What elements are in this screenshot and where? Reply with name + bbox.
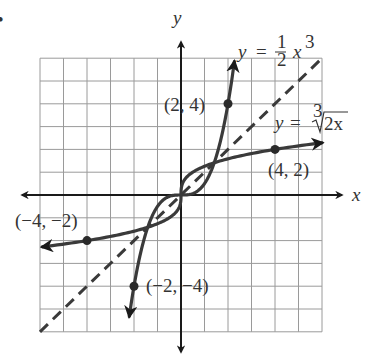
radical-index: 3 [313, 100, 323, 121]
graph-canvas: • x y (2, 4) (4, 2) (−4, −2) (−2, −4) y … [0, 0, 368, 361]
eq-y: y [273, 112, 284, 133]
point-label-4-2: (4, 2) [268, 159, 309, 181]
data-point [83, 236, 92, 245]
radical-argument: 2x [324, 113, 344, 134]
data-point [271, 145, 280, 154]
point-label-neg4-neg2: (−4, −2) [15, 210, 78, 232]
x-axis-label: x [351, 184, 361, 205]
y-axis-label: y [171, 7, 182, 28]
eq-exponent: 3 [305, 31, 315, 52]
eq-equals: = [256, 41, 267, 62]
point-label-2-4: (2, 4) [164, 94, 205, 116]
point-label-neg2-neg4: (−2, −4) [146, 275, 209, 297]
bullet-marker: • [0, 9, 4, 30]
data-point [224, 99, 233, 108]
eq-y: y [236, 41, 247, 62]
eq-x: x [292, 41, 302, 62]
data-point [130, 282, 139, 291]
eq-denominator: 2 [277, 49, 287, 70]
equation-label-cube-root: y = 3 2x [273, 100, 348, 134]
eq-equals: = [290, 112, 301, 133]
